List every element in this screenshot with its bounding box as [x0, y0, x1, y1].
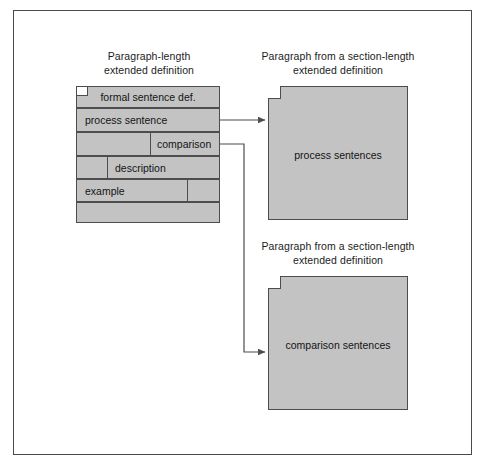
- left-stack-diagram: formal sentence def. process sentence co…: [76, 86, 220, 223]
- box-comparison-sentences: comparison sentences: [268, 276, 408, 410]
- stack-row-empty: [76, 202, 220, 223]
- stack-row-process-sentence: process sentence: [76, 108, 220, 132]
- box-notch-icon: [268, 86, 281, 99]
- stack-row-comparison: comparison: [76, 132, 220, 156]
- stack-row-formal-sentence: formal sentence def.: [76, 86, 220, 108]
- stack-row-label: description: [115, 162, 166, 174]
- stack-row-label: process sentence: [85, 114, 167, 126]
- stack-row-divider: [107, 157, 108, 178]
- diagram-canvas: Paragraph-length extended definition Par…: [0, 0, 487, 471]
- stack-row-example: example: [76, 179, 220, 202]
- stack-row-label: example: [85, 185, 125, 197]
- caption-right-bottom: Paragraph from a section-length extended…: [252, 240, 424, 267]
- stack-row-divider: [150, 133, 151, 155]
- stack-row-divider: [187, 180, 188, 201]
- box-label: comparison sentences: [269, 339, 407, 351]
- stack-row-label: comparison: [157, 138, 211, 150]
- box-label: process sentences: [269, 149, 407, 161]
- caption-left: Paragraph-length extended definition: [76, 50, 222, 77]
- stack-row-description: description: [76, 156, 220, 179]
- box-process-sentences: process sentences: [268, 86, 408, 220]
- caption-right-top: Paragraph from a section-length extended…: [252, 50, 424, 77]
- box-notch-icon: [268, 276, 281, 289]
- stack-row-label: formal sentence def.: [77, 91, 219, 103]
